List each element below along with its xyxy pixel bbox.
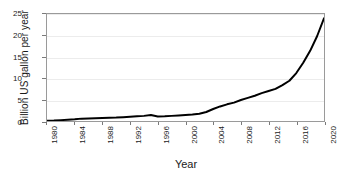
x-tick-label: 2000 [190,126,199,156]
plot-area [46,13,325,122]
series-polyline [47,18,324,121]
x-tick-mark [297,122,298,125]
y-tick-mark [42,35,46,36]
y-tick-mark [42,100,46,101]
series-line-billion-us-gallon-per-year [47,14,324,121]
y-tick-label: 5 [0,96,22,105]
x-tick-label: 1988 [106,126,115,156]
x-tick-mark [102,122,103,125]
x-tick-mark [158,122,159,125]
x-tick-mark [325,122,326,125]
x-tick-label: 2016 [301,126,310,156]
y-tick-label: 25 [0,9,22,18]
y-tick-label: 10 [0,74,22,83]
chart-figure: Billion US gallon per year 0510152025 19… [0,0,345,179]
x-tick-mark [241,122,242,125]
x-tick-label: 2012 [273,126,282,156]
y-tick-label: 0 [0,118,22,127]
x-tick-label: 2004 [217,126,226,156]
y-tick-mark [42,13,46,14]
x-tick-label: 1980 [50,126,59,156]
x-tick-mark [130,122,131,125]
x-tick-mark [74,122,75,125]
x-tick-mark [269,122,270,125]
x-tick-mark [46,122,47,125]
y-tick-mark [42,78,46,79]
x-tick-mark [186,122,187,125]
x-tick-label: 1992 [134,126,143,156]
y-tick-label: 20 [0,30,22,39]
x-tick-label: 1984 [78,126,87,156]
x-tick-label: 2020 [329,126,338,156]
x-tick-mark [213,122,214,125]
y-tick-mark [42,57,46,58]
x-tick-label: 2008 [245,126,254,156]
x-tick-label: 1996 [162,126,171,156]
y-tick-label: 15 [0,52,22,61]
x-axis-title: Year [46,158,326,170]
